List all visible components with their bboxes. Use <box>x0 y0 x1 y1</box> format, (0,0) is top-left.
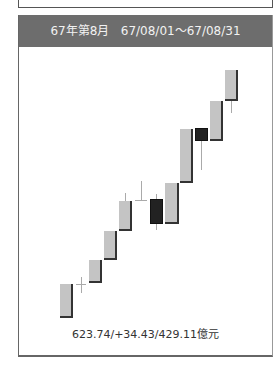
summary-values: 623.74/+34.43/429.11億元 <box>19 325 272 341</box>
date-range: 67/08/01～67/08/31 <box>121 24 241 38</box>
monthly-candlestick-panel: 67年第8月 67/08/01～67/08/31 623.74/+34.43/4… <box>18 15 273 357</box>
candle-up <box>89 260 102 283</box>
month-title: 67年第8月 <box>50 24 109 38</box>
candle-up <box>225 70 238 101</box>
candle-doji <box>76 284 86 285</box>
candle-up <box>119 201 132 231</box>
candle-wick <box>81 277 82 293</box>
candle-down <box>150 199 163 224</box>
candle-up <box>60 284 73 318</box>
candle-doji <box>135 200 147 201</box>
candlestick-chart <box>19 47 272 355</box>
candle-wick <box>141 181 142 200</box>
candle-up <box>104 231 117 260</box>
candle-up <box>180 129 193 183</box>
previous-panel-edge <box>18 0 273 8</box>
candle-down <box>195 128 208 141</box>
candle-up <box>165 183 179 224</box>
candle-up <box>210 101 223 141</box>
panel-header: 67年第8月 67/08/01～67/08/31 <box>19 15 272 47</box>
